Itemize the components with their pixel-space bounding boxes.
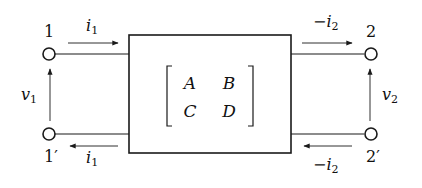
current-label-port2-bottom: −i2 — [313, 155, 339, 176]
matrix-entry-a: A — [182, 73, 196, 93]
matrix-right-bracket-icon — [248, 66, 253, 126]
matrix-entry-c: C — [183, 101, 196, 121]
terminal-label-2prime: 2′ — [366, 147, 380, 166]
terminal-2prime-icon — [365, 128, 377, 140]
terminal-1-icon — [43, 48, 55, 60]
matrix-left-bracket-icon — [167, 66, 172, 126]
voltage-label-port2: v2 — [382, 85, 398, 106]
network-box — [129, 35, 291, 153]
voltage-label-port1: v1 — [21, 85, 37, 106]
matrix-entry-b: B — [222, 73, 236, 93]
current-label-port2-top: −i2 — [313, 12, 339, 33]
terminal-2-icon — [365, 48, 377, 60]
terminal-label-2: 2 — [366, 22, 376, 41]
terminal-label-1prime: 1′ — [44, 147, 58, 166]
terminal-1prime-icon — [43, 128, 55, 140]
current-label-port1-top: i1 — [86, 16, 98, 37]
two-port-diagram: 1 1′ 2 2′ i1 i1 −i2 −i2 v1 v2 A B C D — [0, 0, 422, 188]
terminal-label-1: 1 — [44, 22, 54, 41]
current-label-port1-bottom: i1 — [86, 148, 98, 169]
matrix-entry-d: D — [221, 101, 236, 121]
